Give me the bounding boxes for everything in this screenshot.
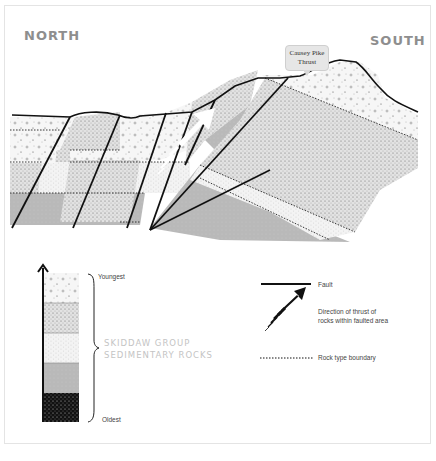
strat-layer-3: [44, 333, 79, 363]
cross-section: [0, 0, 436, 461]
thrust-key-line-1: Direction of thrust of: [318, 307, 388, 316]
callout-line-1: Causey Pike: [286, 49, 328, 58]
strat-layer-1: [44, 273, 79, 303]
youngest-label: Youngest: [98, 273, 125, 280]
strat-layer-4: [44, 363, 79, 393]
boundary-key-label: Rock type boundary: [318, 354, 376, 361]
strat-layer-2: [44, 303, 79, 333]
thrust-key-line-2: rocks within faulted area: [318, 316, 388, 325]
strat-layer-5: [44, 393, 79, 422]
strat-column: [44, 273, 79, 422]
skiddaw-group-label: SKIDDAW GROUP SEDIMENTARY ROCKS: [104, 337, 213, 361]
thrust-key-label: Direction of thrust of rocks within faul…: [318, 307, 388, 325]
oldest-label: Oldest: [102, 416, 121, 423]
causey-pike-thrust-callout: Causey Pike Thrust: [285, 45, 329, 71]
group-brace: [88, 274, 99, 422]
callout-line-2: Thrust: [286, 58, 328, 67]
callout-pointer: [303, 70, 311, 76]
group-label-line-1: SKIDDAW GROUP: [104, 337, 213, 349]
group-label-line-2: SEDIMENTARY ROCKS: [104, 349, 213, 361]
thrust-key-arrow-icon: [265, 287, 306, 331]
fault-key-label: Fault: [318, 281, 332, 288]
